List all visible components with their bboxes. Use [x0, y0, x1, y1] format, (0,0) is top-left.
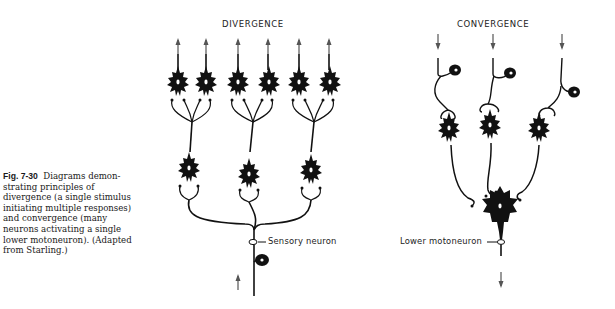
- input-arrows-down: [436, 34, 565, 50]
- motoneuron-marker: [497, 240, 504, 245]
- divergence-diagram: [167, 38, 341, 296]
- lower-motoneuron-label: Lower motoneuron: [400, 236, 482, 246]
- sensory-ganglion-cell: [255, 254, 269, 266]
- interneurons: [178, 152, 322, 188]
- lower-motoneuron: [482, 186, 518, 240]
- output-arrow-down-icon: [499, 272, 504, 288]
- convergence-diagram: [435, 34, 580, 288]
- output-arrows-up: [176, 38, 332, 54]
- output-neurons: [167, 66, 341, 96]
- sensory-neuron-label: Sensory neuron: [268, 236, 337, 246]
- sensory-neuron-marker: [249, 239, 257, 244]
- input-arrow-up-icon: [236, 274, 241, 290]
